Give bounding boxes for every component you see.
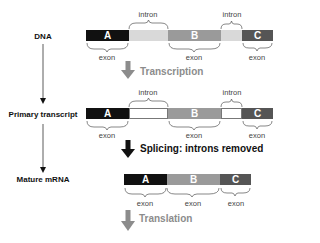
dna-exon-a: A <box>86 30 129 41</box>
brace-exon-a-primary <box>87 121 128 130</box>
primary-intron-2 <box>221 108 242 119</box>
left-arrow-dna-to-primary <box>40 44 46 104</box>
mature-exon-a: A <box>124 174 167 185</box>
translation-arrow-icon <box>121 210 135 231</box>
dna-intron-label-2: intron <box>223 10 242 19</box>
dna-intron-1 <box>129 30 168 41</box>
primary-exon-a: A <box>86 108 129 119</box>
primary-intron-1 <box>129 108 168 119</box>
brace-exon-c-mature <box>221 188 250 196</box>
splicing-arrow-icon <box>121 140 135 158</box>
step-translation: Translation <box>139 213 192 224</box>
dna-intron-2 <box>221 30 242 41</box>
step-splicing: Splicing: introns removed <box>140 143 263 154</box>
brace-intron-2-dna <box>221 21 242 29</box>
mature-exon-label-c: exon <box>228 199 244 208</box>
dna-exon-c: C <box>242 30 273 41</box>
brace-exon-a-mature <box>125 188 166 197</box>
primary-exon-label-a: exon <box>99 131 115 140</box>
mature-exon-b: B <box>167 174 220 185</box>
dna-exon-b: B <box>168 30 221 41</box>
brace-exon-c-dna <box>243 43 272 51</box>
brace-intron-1-primary <box>129 98 168 107</box>
dna-exon-label-c: exon <box>249 53 265 62</box>
primary-exon-b: B <box>168 108 221 119</box>
primary-intron-label-2: intron <box>223 88 242 97</box>
dna-exon-label-b: exon <box>186 53 202 62</box>
primary-exon-label-b: exon <box>186 131 202 140</box>
primary-exon-label-c: exon <box>249 131 265 140</box>
mature-exon-label-a: exon <box>137 199 153 208</box>
mature-exon-label-b: exon <box>185 199 201 208</box>
primary-intron-label-1: intron <box>139 88 158 97</box>
brace-exon-b-dna <box>169 43 220 52</box>
brace-exon-c-primary <box>243 121 272 129</box>
transcription-arrow-icon <box>121 61 135 79</box>
left-arrow-primary-to-mature <box>40 124 46 173</box>
step-transcription: Transcription <box>140 66 203 77</box>
brace-exon-b-primary <box>169 121 220 130</box>
primary-exon-c: C <box>242 108 273 119</box>
mature-exon-c: C <box>220 174 251 185</box>
dna-exon-label-a: exon <box>99 53 115 62</box>
brace-intron-1-dna <box>129 20 168 29</box>
brace-exon-b-mature <box>167 188 219 197</box>
brace-exon-a-dna <box>87 43 128 52</box>
brace-intron-2-primary <box>221 99 242 107</box>
dna-intron-label-1: intron <box>139 10 158 19</box>
